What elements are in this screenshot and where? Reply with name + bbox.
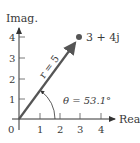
y-tick-label: 3 bbox=[9, 53, 15, 64]
point-marker bbox=[76, 34, 82, 40]
y-tick-label: 4 bbox=[9, 32, 15, 43]
angle-arc bbox=[41, 91, 55, 119]
x-ticks bbox=[40, 113, 101, 119]
x-tick-label: 2 bbox=[57, 124, 63, 135]
x-tick-label: 4 bbox=[98, 124, 104, 135]
complex-plane-diagram: 1 2 3 4 1 2 3 4 0 Imag. Real 3 + 4j r = … bbox=[0, 0, 140, 143]
y-tick-label: 1 bbox=[9, 94, 15, 105]
x-axis-label: Real bbox=[119, 113, 140, 126]
x-tick-label: 1 bbox=[37, 124, 43, 135]
phasor-vector bbox=[19, 43, 75, 119]
y-tick-label: 2 bbox=[9, 74, 15, 85]
y-ticks bbox=[19, 37, 25, 99]
point-label: 3 + 4j bbox=[86, 31, 120, 44]
angle-label: θ = 53.1° bbox=[63, 95, 111, 106]
y-axis-label: Imag. bbox=[6, 12, 38, 25]
x-tick-label: 3 bbox=[77, 124, 83, 135]
origin-label: 0 bbox=[8, 124, 14, 135]
